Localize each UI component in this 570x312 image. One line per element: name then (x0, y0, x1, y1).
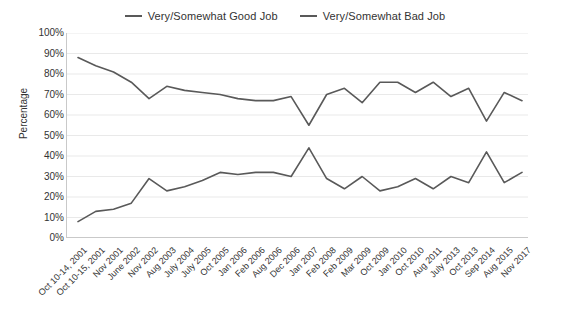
x-axis-tick-label: Sep 2014 (391, 245, 497, 312)
plot-svg (66, 33, 528, 238)
x-axis-tick-label: Aug 2003 (72, 245, 178, 312)
y-axis-title: Percentage (18, 69, 29, 159)
y-axis-tick-label: 90% (30, 49, 64, 59)
x-axis-tick-label: Jan 2007 (214, 245, 320, 312)
y-axis-tick-label: 80% (30, 69, 64, 79)
x-axis-tick-label: Jan 2010 (303, 245, 409, 312)
x-axis-tick-label: July 2013 (356, 245, 462, 312)
legend-item-bad-job: Very/Somewhat Bad Job (300, 10, 446, 22)
y-axis-tick-label: 70% (30, 90, 64, 100)
chart-legend: Very/Somewhat Good Job Very/Somewhat Bad… (0, 10, 570, 22)
x-axis-tick-label: Dec 2006 (196, 245, 302, 312)
y-axis-tick-label: 20% (30, 192, 64, 202)
x-axis-tick-label: Aug 2011 (338, 245, 444, 312)
x-axis-tick-label: Oct 2013 (374, 245, 480, 312)
x-axis-tick-label: Nov 2017 (427, 245, 533, 312)
y-axis-tick-label: 30% (30, 172, 64, 182)
legend-label-good-job: Very/Somewhat Good Job (148, 10, 278, 22)
x-axis-tick-label: Feb 2006 (161, 245, 267, 312)
y-axis-tick-label: 40% (30, 151, 64, 161)
x-axis-tick-label: Oct 2009 (285, 245, 391, 312)
y-axis-tick-label: 10% (30, 213, 64, 223)
line-chart: Very/Somewhat Good Job Very/Somewhat Bad… (0, 0, 570, 312)
x-axis-tick-label: Feb 2008 (232, 245, 338, 312)
x-axis-tick-label: Oct 2005 (125, 245, 231, 312)
x-axis-tick-label: Jan 2006 (143, 245, 249, 312)
series-line-bad-job (78, 148, 522, 222)
y-axis-tick-label: 50% (30, 131, 64, 141)
legend-item-good-job: Very/Somewhat Good Job (125, 10, 278, 22)
x-axis-tick-label: Oct 2010 (320, 245, 426, 312)
y-axis-tick-label: 0% (30, 233, 64, 243)
legend-label-bad-job: Very/Somewhat Bad Job (323, 10, 446, 22)
x-axis-tick-label: Nov 2002 (54, 245, 160, 312)
x-axis-tick-label: Feb 2009 (249, 245, 355, 312)
legend-line-swatch-bad-job (300, 15, 317, 17)
y-axis-tick-labels: 100%90%80%70%60%50%40%30%20%10%0% (28, 0, 64, 312)
x-axis-tick-label: July 2004 (90, 245, 196, 312)
plot-area (66, 33, 528, 238)
y-axis-tick-label: 100% (30, 28, 64, 38)
x-axis-tick-label: Aug 2015 (409, 245, 515, 312)
legend-line-swatch-good-job (125, 15, 142, 17)
x-axis-tick-label: Aug 2006 (178, 245, 284, 312)
y-axis-tick-label: 60% (30, 110, 64, 120)
x-axis-tick-label: Mar 2009 (267, 245, 373, 312)
x-axis-tick-label: July 2005 (107, 245, 213, 312)
